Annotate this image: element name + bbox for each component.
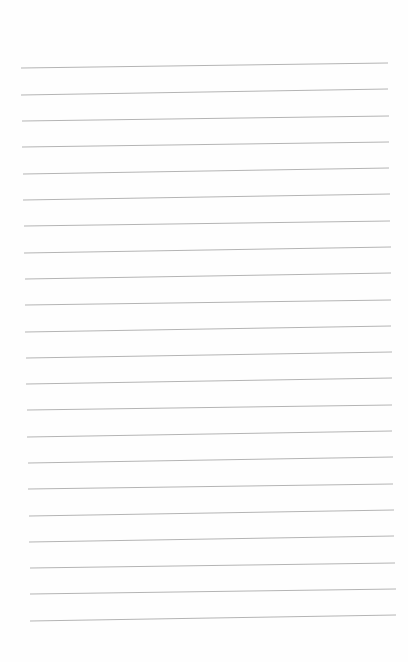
ruled-line-8	[24, 247, 391, 253]
ruled-line-22	[30, 615, 396, 621]
ruled-line-4	[22, 142, 389, 147]
ruled-line-1	[21, 63, 388, 68]
ruled-line-7	[24, 221, 390, 226]
ruled-line-20	[30, 563, 395, 568]
ruled-line-9	[25, 273, 391, 279]
ruled-line-14	[27, 405, 392, 410]
ruled-lines	[0, 0, 408, 662]
ruled-line-17	[28, 484, 393, 489]
ruled-line-3	[22, 116, 389, 121]
ruled-line-10	[25, 300, 391, 305]
ruled-line-5	[23, 168, 389, 174]
ruled-line-13	[26, 378, 392, 384]
ruled-line-2	[21, 89, 388, 95]
ruled-line-19	[29, 536, 394, 542]
lined-paper-sheet	[0, 0, 408, 662]
ruled-line-11	[25, 326, 391, 332]
ruled-line-21	[30, 589, 396, 594]
ruled-line-6	[23, 194, 390, 200]
ruled-line-18	[29, 510, 394, 516]
ruled-line-15	[27, 431, 392, 437]
ruled-line-12	[26, 352, 392, 358]
ruled-line-16	[28, 457, 393, 463]
